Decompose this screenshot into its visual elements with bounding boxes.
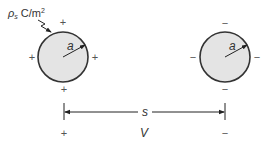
voltage-annotation: + V −	[61, 126, 228, 140]
radius-label: a	[229, 39, 236, 53]
sign-top: −	[222, 17, 228, 29]
separation-dimension: s	[64, 103, 225, 120]
sign-top: +	[60, 16, 66, 28]
voltage-label: V	[140, 126, 149, 140]
left-sphere: a + + + +	[29, 16, 98, 95]
voltage-positive: +	[61, 127, 67, 139]
two-sphere-capacitor-diagram: ρs C/m2 a + + + + a − − − − s + V −	[0, 0, 268, 143]
sign-bottom: +	[61, 83, 67, 95]
sign-left: +	[29, 51, 35, 63]
charge-density-label: ρs C/m2	[7, 7, 45, 20]
sign-right: +	[92, 51, 98, 63]
sign-bottom: −	[222, 83, 228, 95]
leader-arrow-icon	[38, 20, 51, 32]
separation-label: s	[142, 105, 148, 119]
radius-label: a	[67, 39, 74, 53]
right-sphere: a − − − −	[190, 17, 260, 95]
voltage-negative: −	[222, 127, 228, 139]
sign-right: −	[254, 51, 260, 63]
sign-left: −	[190, 51, 196, 63]
